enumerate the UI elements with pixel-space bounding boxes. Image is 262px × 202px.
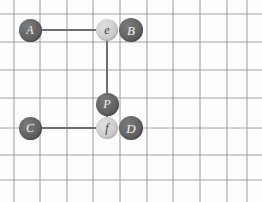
stone-C[interactable]: C — [19, 117, 42, 140]
stone-layer: AeBPCfD — [0, 0, 262, 202]
stone-e[interactable]: e — [96, 19, 118, 41]
stone-D[interactable]: D — [119, 116, 143, 140]
stone-f[interactable]: f — [96, 117, 118, 139]
stone-label-e: e — [104, 24, 109, 36]
go-board-diagram: AeBPCfD — [0, 0, 262, 202]
stone-A[interactable]: A — [19, 19, 42, 42]
stone-label-A: A — [26, 24, 33, 36]
stone-label-f: f — [105, 122, 108, 134]
stone-label-B: B — [127, 23, 135, 36]
stone-P[interactable]: P — [96, 93, 119, 116]
stone-label-P: P — [103, 98, 110, 110]
stone-B[interactable]: B — [119, 18, 143, 42]
stone-label-C: C — [26, 122, 34, 134]
stone-label-D: D — [126, 121, 135, 134]
